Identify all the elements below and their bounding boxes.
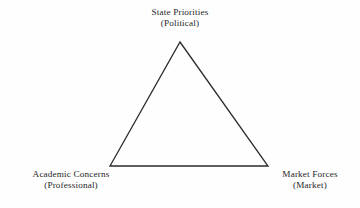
vertex-label-primary: State Priorities	[0, 7, 360, 18]
triangle-outline	[110, 42, 268, 166]
vertex-label-secondary: (Professional)	[8, 180, 134, 191]
vertex-label-secondary: (Market)	[262, 180, 358, 191]
vertex-label-primary: Market Forces	[262, 169, 358, 180]
vertex-label-primary: Academic Concerns	[8, 169, 134, 180]
vertex-label-academic-concerns: Academic Concerns (Professional)	[8, 169, 134, 192]
vertex-label-market-forces: Market Forces (Market)	[262, 169, 358, 192]
diagram-canvas: State Priorities (Political) Academic Co…	[0, 0, 360, 208]
vertex-label-secondary: (Political)	[0, 18, 360, 29]
vertex-label-state-priorities: State Priorities (Political)	[0, 7, 360, 30]
